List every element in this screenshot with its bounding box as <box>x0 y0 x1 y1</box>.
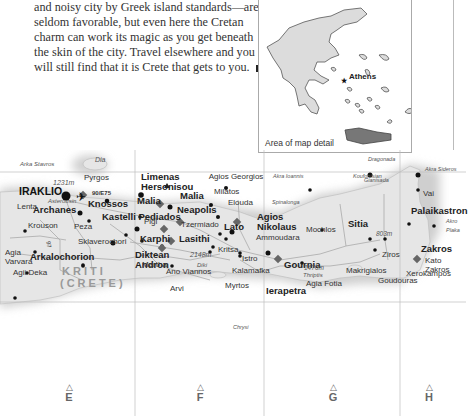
town-archanes: Archanes <box>33 205 76 215</box>
village-agios-georgios: Agios Georgios <box>206 172 266 181</box>
locator-inset-map: ★ Athens Area of map detail <box>258 0 412 153</box>
village-sklaverochori: Sklaverochori <box>78 237 126 246</box>
island-label-dragonada: Dragonada <box>368 155 395 164</box>
island-label-dia: Dia <box>95 155 106 164</box>
island-label-chrysi: Chrysi <box>233 323 249 332</box>
island-label-koufonisian: Koufonisian <box>353 172 382 181</box>
peak-elevation-asterousin: 1231m <box>53 178 74 187</box>
cape-label: Arka Stavros <box>20 160 54 169</box>
site-knossos: Knossos <box>88 199 128 209</box>
village-milatos: Milatos <box>214 187 239 196</box>
site-karphi: Karphi <box>140 234 170 244</box>
town-limenas-hersonisou: Limenas Hersonisou <box>141 172 211 192</box>
cape-label-akra-ioannis: Akra Ioannis <box>273 172 308 181</box>
crete-highlight <box>345 128 391 144</box>
town-iraklio: IRAKLIO <box>19 186 62 197</box>
village-martha: Martha <box>142 260 167 269</box>
text-line-last: will still find that it is Crete that ge… <box>34 60 234 75</box>
spinalonga-label: Spinalonga <box>272 198 300 207</box>
inset-caption: Area of map detail <box>265 138 334 148</box>
village-elouda: Elouda <box>228 198 253 207</box>
village-ano-viannos: Ano Viannos <box>166 267 211 276</box>
road-label: 90/E75 <box>92 189 111 198</box>
village-arvi: Arvi <box>170 284 184 293</box>
text-line: seldom favorable, but even here the Cret… <box>34 15 234 30</box>
town-neapolis: Neapolis <box>177 205 217 215</box>
village-kritsa: Kritsa <box>218 245 238 254</box>
village-myrtos: Myrtos <box>225 281 249 290</box>
text-line: the skin of the city. Travel elsewhere a… <box>34 45 234 60</box>
greece-outline-icon: ★ <box>259 0 411 152</box>
peak-elevation-803: 803m <box>376 229 392 238</box>
grid-column-g: △G <box>326 383 340 403</box>
region-label-crete: (CRETE) <box>60 279 126 288</box>
airport-icon: ✈ <box>76 190 86 204</box>
crete-map: ✈ Arka Stavros Dia IRAKLIO 90/E75 Knosso… <box>0 150 466 416</box>
grid-column-f: △F <box>193 383 207 403</box>
village-mochlos: Mochlos <box>306 225 336 234</box>
town-ierapetra: Ierapetra <box>266 286 306 296</box>
site-lato: Lato <box>224 222 244 232</box>
village-kalamafka: Kalamafka <box>232 266 270 275</box>
site-malia: Malia <box>180 191 204 201</box>
village-agia-fotia: Agia Fotia <box>306 279 342 288</box>
village-vai: Vai <box>423 189 434 198</box>
road-label-97: 97 <box>43 240 53 248</box>
cape-label-akro-plaka: Akro Plaka <box>446 217 466 235</box>
village-agii-deka: Agii Deka <box>13 268 47 277</box>
town-agios-nikolaus: Agios Nikolaus <box>257 212 307 232</box>
text-line: charm can work its magic as you get bene… <box>34 30 234 45</box>
village-istro: Istro <box>242 254 258 263</box>
grid-column-h: △H <box>422 383 436 403</box>
village-makrigialos: Makrigialos <box>346 266 386 275</box>
village-krouson: Krouson <box>28 221 58 230</box>
column-rule <box>453 0 454 150</box>
article-text: and noisy city by Greek island standards… <box>34 0 234 75</box>
village-pigi: Pigi <box>144 217 157 226</box>
inset-city-label: Athens <box>349 72 376 82</box>
village-peza: Peza <box>74 222 92 231</box>
town-malia: Malia <box>137 196 161 206</box>
village-tzermiado: Tzermiado <box>181 220 219 229</box>
town-sitia: Sitia <box>348 219 368 229</box>
town-arkalochorion: Arkalochorion <box>30 252 94 262</box>
site-zakros: Zakros <box>421 244 452 254</box>
site-lasithi: Lasithi <box>179 234 210 244</box>
village-lenta: Lenta <box>17 202 37 211</box>
peak-elevation-diki: 2148m <box>190 250 211 259</box>
town-palaikastron: Palaikastron <box>411 206 468 216</box>
village-pyrgos: Pyrgos <box>84 173 109 182</box>
svg-text:★: ★ <box>341 77 348 84</box>
triangle-marker-icon: △ <box>193 383 207 391</box>
peak-name-asterousin: Asterousin <box>48 197 76 206</box>
grid-column-e: △E <box>62 383 76 403</box>
triangle-marker-icon: △ <box>422 383 436 391</box>
cape-label-akra-sideros: Akra Sideros <box>425 165 457 174</box>
triangle-marker-icon: △ <box>62 383 76 391</box>
region-label-kriti: KRITI <box>62 267 106 276</box>
village-ziros: Ziros <box>382 250 400 259</box>
triangle-marker-icon: △ <box>326 383 340 391</box>
village-xerokampos: Xerokampos <box>406 269 451 278</box>
village-ammoudara: Ammoudara <box>256 233 300 242</box>
town-kastelli-pediados: Kastelli Pediados <box>102 212 181 222</box>
text-line: and noisy city by Greek island standards… <box>34 0 234 15</box>
